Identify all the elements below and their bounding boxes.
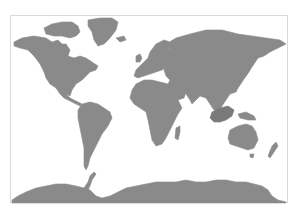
landmass-south-america <box>78 102 112 170</box>
landmass-madagascar <box>175 126 180 140</box>
landmass-greenland <box>88 18 118 46</box>
landmass-new-zealand <box>268 142 278 158</box>
world-map <box>0 0 297 221</box>
landmass-north-america <box>14 36 98 96</box>
landmass-antarctic-peninsula <box>84 172 96 190</box>
landmass-new-guinea <box>238 112 256 120</box>
landmass-australia <box>228 124 258 150</box>
landmass-canadian-arctic-islands <box>44 22 80 38</box>
landmass-antarctica <box>12 180 286 203</box>
landmass-iceland <box>116 36 126 42</box>
land-layer <box>12 18 286 203</box>
landmass-uk <box>136 54 142 62</box>
landmass-tasmania <box>250 154 254 158</box>
landmass-asia <box>164 30 286 112</box>
